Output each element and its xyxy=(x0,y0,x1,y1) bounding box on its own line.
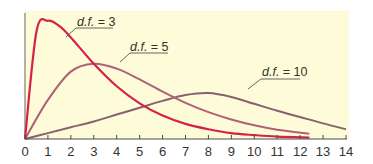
x-tick-label: 5 xyxy=(136,144,143,159)
x-tick-label: 3 xyxy=(90,144,97,159)
x-tick-label: 1 xyxy=(44,144,51,159)
x-tick-label: 12 xyxy=(293,144,307,159)
x-tick-label: 8 xyxy=(205,144,212,159)
x-tick-label: 2 xyxy=(67,144,74,159)
x-tick-label: 14 xyxy=(339,144,353,159)
x-tick-label: 10 xyxy=(247,144,261,159)
x-tick-label: 0 xyxy=(21,144,28,159)
x-tick-label: 7 xyxy=(182,144,189,159)
x-tick-label: 6 xyxy=(159,144,166,159)
curve-label-df-10: d.f. = 10 xyxy=(262,65,308,79)
x-tick-label: 9 xyxy=(228,144,235,159)
x-tick-label: 11 xyxy=(270,144,284,159)
curve-label-df-5: d.f. = 5 xyxy=(130,40,169,54)
chi-square-chart: 01234567891011121314 d.f. = 3d.f. = 5d.f… xyxy=(0,0,373,164)
curve-label-df-3: d.f. = 3 xyxy=(77,15,116,29)
x-tick-label: 13 xyxy=(316,144,330,159)
x-tick-label: 4 xyxy=(113,144,120,159)
